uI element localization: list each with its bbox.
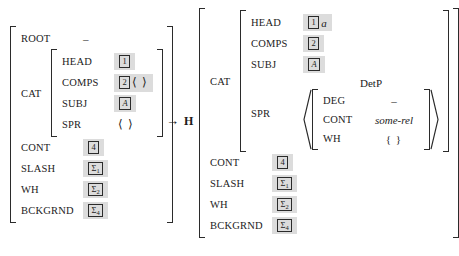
value-wh: Σ2 — [83, 181, 108, 198]
value-cont: some-rel — [368, 114, 420, 126]
detp-bracket-left — [312, 89, 318, 150]
angle-bracket-right-icon — [430, 89, 439, 150]
detp-avm: DEG – CONT — [312, 89, 430, 150]
avm-row-head: HEAD 1 — [62, 51, 153, 72]
avm-row-slash: SLASH Σ1 — [21, 158, 163, 179]
avm-row-cont: CONT 4 — [21, 137, 163, 158]
attr-label-root: ROOT — [21, 33, 83, 44]
spr-list-wrapper: DetP — [303, 77, 439, 150]
coindex-tag: 2 — [308, 37, 319, 51]
attr-label-head: HEAD — [251, 17, 303, 28]
avm-row-comps: COMPS 2 ⟨ ⟩ — [62, 72, 153, 93]
tag-highlight: 1 a — [303, 14, 332, 31]
dash-glyph: – — [83, 33, 89, 45]
value-spr: ⟨ ⟩ — [114, 117, 134, 132]
value-slash: Σ1 — [83, 160, 108, 177]
value-wh: { } — [368, 133, 420, 145]
dash-glyph: – — [391, 95, 397, 107]
tag-highlight: A — [114, 95, 136, 112]
value-bckgrnd: Σ4 — [272, 217, 297, 234]
tag-highlight: A — [303, 56, 325, 73]
mother-bracket-left — [10, 26, 16, 223]
attr-label-slash: SLASH — [210, 178, 272, 189]
avm-row-cat: CAT HEAD 1 a — [210, 10, 449, 152]
cat-bracket-right — [443, 10, 449, 152]
attr-label-subj: SUBJ — [62, 98, 114, 109]
angle-bracket-left-icon — [303, 89, 312, 150]
avm-row-bckgrnd: BCKGRND Σ4 — [21, 200, 163, 221]
daughter-rows: CAT HEAD 1 a — [205, 8, 453, 238]
avm-row-deg: DEG – — [323, 91, 420, 110]
avm-row-spr: SPR ⟨ ⟩ — [62, 114, 153, 135]
tag-highlight: Σ2 — [272, 196, 297, 213]
attr-label-cont: CONT — [210, 157, 272, 168]
attr-label-deg: DEG — [323, 95, 368, 106]
detp-rows: DEG – CONT — [318, 89, 424, 150]
tag-highlight: 2 ⟨ ⟩ — [114, 74, 153, 92]
coindex-tag: Σ4 — [277, 219, 292, 233]
daughter-avm: CAT HEAD 1 a — [199, 8, 459, 238]
rule-arrow-block: → H — [166, 113, 193, 129]
daughter-bracket-right — [453, 8, 459, 238]
spr-list: DEG – CONT — [303, 89, 439, 150]
avm-row-subj: SUBJ A — [251, 54, 439, 75]
avm-row-comps: COMPS 2 — [251, 33, 439, 54]
mother-rows: ROOT – CAT HEAD — [16, 26, 167, 223]
coindex-tag: 2 — [119, 76, 130, 90]
value-slash: Σ1 — [272, 175, 297, 192]
tag-highlight: Σ1 — [83, 160, 108, 177]
tag-highlight: Σ1 — [272, 175, 297, 192]
tag-highlight: Σ4 — [83, 202, 108, 219]
avm-row-cont: CONT 4 — [210, 152, 449, 173]
cat-rows: HEAD 1 a COMPS — [246, 10, 443, 152]
attr-label-wh: WH — [323, 133, 368, 144]
attr-label-cat: CAT — [21, 88, 51, 99]
avm-row-wh: WH Σ2 — [21, 179, 163, 200]
value-subj: A — [114, 95, 136, 112]
tag-highlight: Σ4 — [272, 217, 297, 234]
sort-label-detp: DetP — [360, 77, 382, 89]
avm-row-wh: WH { } — [323, 129, 420, 148]
avm-row-cont: CONT some-rel — [323, 110, 420, 129]
tag-highlight: 4 — [83, 139, 104, 156]
attr-label-spr: SPR — [251, 108, 303, 119]
attr-label-slash: SLASH — [21, 163, 83, 174]
value-cont: 4 — [272, 154, 293, 171]
value-subj: A — [303, 56, 325, 73]
sort-value: some-rel — [375, 114, 413, 126]
attr-label-wh: WH — [210, 199, 272, 210]
mother-avm: ROOT – CAT HEAD — [10, 26, 173, 223]
coindex-tag: Σ4 — [88, 204, 103, 218]
attr-label-wh: WH — [21, 184, 83, 195]
attr-label-comps: COMPS — [62, 77, 114, 88]
coindex-tag: 1 — [308, 16, 319, 30]
daughter-bracket-left — [199, 8, 205, 238]
cat-bracket-right — [157, 49, 163, 137]
coindex-tag: 1 — [119, 55, 130, 69]
avm-row-root: ROOT – — [21, 28, 163, 49]
value-root: – — [83, 33, 89, 45]
avm-row-bckgrnd: BCKGRND Σ4 — [210, 215, 449, 236]
empty-set-glyph: { } — [386, 133, 402, 145]
value-deg: – — [368, 95, 420, 107]
cat-bracket-left — [240, 10, 246, 152]
cat-avm: HEAD 1 a COMPS — [240, 10, 449, 152]
avm-row-spr: SPR DetP — [251, 77, 439, 150]
avm-row-cat: CAT HEAD 1 — [21, 49, 163, 137]
coindex-tag: Σ1 — [88, 162, 103, 176]
value-head: 1 a — [303, 14, 332, 31]
value-cont: 4 — [83, 139, 104, 156]
value-comps: 2 — [303, 35, 324, 52]
coindex-tag: Σ1 — [277, 177, 292, 191]
coindex-tag: 4 — [88, 141, 99, 155]
avm-row-subj: SUBJ A — [62, 93, 153, 114]
avm-row-slash: SLASH Σ1 — [210, 173, 449, 194]
sort-suffix: a — [319, 17, 327, 29]
value-head: 1 — [114, 53, 135, 70]
tag-highlight: Σ2 — [83, 181, 108, 198]
value-cat: HEAD 1 a COMPS — [240, 10, 449, 152]
value-bckgrnd: Σ4 — [83, 202, 108, 219]
attr-label-comps: COMPS — [251, 38, 303, 49]
attr-label-cont: CONT — [323, 114, 368, 125]
